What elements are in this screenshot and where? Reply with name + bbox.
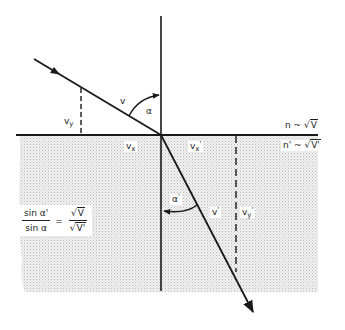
alpha-label: α <box>144 106 154 117</box>
alpha-prime-label: α' <box>170 194 182 205</box>
v-label: v <box>118 96 127 107</box>
vx-prime-label: vx' <box>188 141 203 152</box>
diagram-canvas <box>0 0 345 330</box>
incident-arrow-icon <box>50 67 60 75</box>
formula-left-fraction: sin α' sin α <box>22 208 50 233</box>
vy-prime-label: vy' <box>240 207 255 218</box>
n-lower-label: n' ~ √V' <box>281 140 323 151</box>
snell-formula: sin α' sin α = √V √V' <box>18 205 92 236</box>
vx-label: vx <box>124 141 137 152</box>
n-upper-label: n ~ √V <box>283 120 320 131</box>
formula-right-fraction: √V √V' <box>68 208 88 233</box>
vy-label: vy <box>62 116 75 127</box>
formula-equals: = <box>55 216 63 226</box>
refraction-diagram: v α vy vx vx' n ~ √V n' ~ √V' α' v' vy' … <box>0 0 345 330</box>
v-prime-label: v' <box>210 207 221 218</box>
